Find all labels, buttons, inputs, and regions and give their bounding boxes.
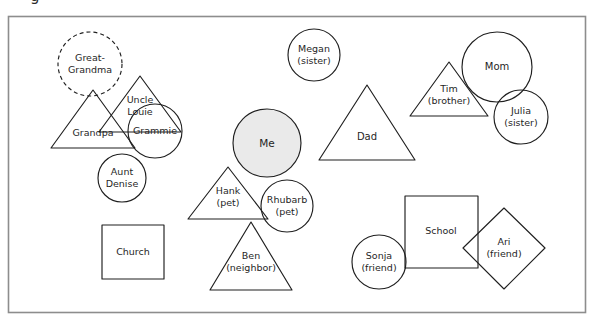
diagram-node-julia[interactable]: Julia(sister) xyxy=(494,90,548,144)
diagram-node-sonja[interactable]: Sonja(friend) xyxy=(352,235,406,289)
node-label-line: (brother) xyxy=(428,95,470,106)
node-label-line: Church xyxy=(116,246,150,257)
node-label-grammie: Grammie xyxy=(133,125,177,136)
node-label-line: (sister) xyxy=(297,55,330,66)
node-label-line: Tim xyxy=(439,82,457,93)
node-label-line: (pet) xyxy=(216,197,239,208)
relationship-map-canvas: g Great-GrandmaUncleLouieGrandpaGrammieA… xyxy=(0,0,604,321)
node-label-line: Megan xyxy=(298,42,330,53)
node-label-line: Ari xyxy=(497,235,510,246)
cropped-header-text: g xyxy=(30,0,40,5)
node-label-line: School xyxy=(425,225,457,236)
node-shape-triangle-grandpa xyxy=(51,90,135,148)
node-label-tim: Tim(brother) xyxy=(428,82,470,105)
diagram-node-church[interactable]: Church xyxy=(102,225,164,279)
diagram-node-me[interactable]: Me xyxy=(233,109,301,177)
node-label-line: Me xyxy=(259,137,275,149)
node-label-megan: Megan(sister) xyxy=(297,42,330,65)
node-label-grandpa: Grandpa xyxy=(73,127,114,138)
node-label-ari: Ari(friend) xyxy=(486,235,521,258)
node-label-line: Grandpa xyxy=(73,127,114,138)
node-label-mom: Mom xyxy=(485,61,510,72)
node-label-church: Church xyxy=(116,246,150,257)
node-label-line: Uncle xyxy=(127,93,154,104)
node-label-line: (pet) xyxy=(275,206,298,217)
node-label-line: Grandma xyxy=(68,64,112,75)
node-label-line: Julia xyxy=(510,104,531,115)
diagram-node-school[interactable]: School xyxy=(405,196,478,268)
relationship-map-diagram: Great-GrandmaUncleLouieGrandpaGrammieAun… xyxy=(0,0,604,321)
diagram-node-aunt-denise[interactable]: AuntDenise xyxy=(98,154,146,202)
node-label-line: Louie xyxy=(127,106,153,117)
node-label-line: Grammie xyxy=(133,125,177,136)
node-label-line: Ben xyxy=(242,249,260,260)
node-label-great-grandma: Great-Grandma xyxy=(68,51,112,74)
diagram-node-tim[interactable]: Tim(brother) xyxy=(410,62,488,116)
node-label-line: (sister) xyxy=(504,117,537,128)
diagram-node-megan[interactable]: Megan(sister) xyxy=(288,29,340,81)
diagram-node-mom[interactable]: Mom xyxy=(462,32,532,102)
node-label-dad: Dad xyxy=(357,131,377,142)
node-label-school: School xyxy=(425,225,457,236)
node-label-hank: Hank(pet) xyxy=(216,184,241,207)
node-label-sonja: Sonja(friend) xyxy=(361,249,396,272)
diagram-node-dad[interactable]: Dad xyxy=(319,85,415,160)
node-label-line: Hank xyxy=(216,184,241,195)
node-label-julia: Julia(sister) xyxy=(504,104,537,127)
diagram-node-grandpa[interactable]: Grandpa xyxy=(51,90,135,148)
node-label-me: Me xyxy=(259,137,275,149)
node-shape-triangle-dad xyxy=(319,85,415,160)
node-label-line: Denise xyxy=(106,178,139,189)
node-label-line: Dad xyxy=(357,131,377,142)
node-label-ben: Ben(neighbor) xyxy=(226,249,276,272)
node-label-line: Mom xyxy=(485,61,510,72)
node-label-line: Rhubarb xyxy=(267,193,307,204)
diagram-node-ben[interactable]: Ben(neighbor) xyxy=(210,222,292,290)
node-label-aunt-denise: AuntDenise xyxy=(106,165,139,188)
diagram-node-great-grandma[interactable]: Great-Grandma xyxy=(58,32,122,96)
node-label-rhubarb: Rhubarb(pet) xyxy=(267,193,307,216)
node-label-line: Aunt xyxy=(111,165,134,176)
node-label-line: (neighbor) xyxy=(226,262,276,273)
node-label-line: Sonja xyxy=(366,249,392,260)
diagram-node-ari[interactable]: Ari(friend) xyxy=(463,208,545,289)
node-label-line: (friend) xyxy=(361,262,396,273)
node-label-line: Great- xyxy=(75,51,105,62)
diagram-node-grammie[interactable]: Grammie xyxy=(128,104,182,158)
diagram-node-rhubarb[interactable]: Rhubarb(pet) xyxy=(261,180,313,232)
node-label-line: (friend) xyxy=(486,248,521,259)
